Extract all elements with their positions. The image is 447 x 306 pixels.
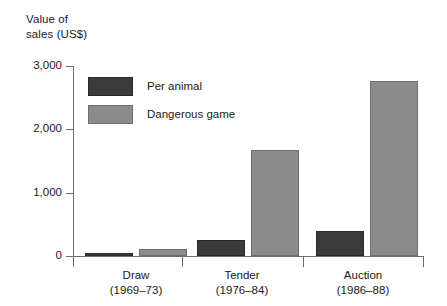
bar-draw-per-animal [85,253,133,256]
bar-auction-dangerous-game [370,81,418,256]
legend-swatch-icon [88,77,133,96]
x-label-tender: Tender (1976–84) [199,268,285,297]
legend-item-per-animal: Per animal [88,76,235,96]
x-label-draw: Draw (1969–73) [93,268,179,297]
bar-chart: Value of sales (US$) 3,000 2,000 1,000 0… [0,0,447,306]
y-tick-1000: 1,000 [0,193,74,194]
x-label-name: Auction [318,268,408,283]
y-tick-label: 0 [18,250,62,262]
x-separator-start [73,256,74,267]
y-axis-line [73,66,74,257]
x-label-years: (1986–88) [318,283,408,298]
y-tick-mark [66,193,74,194]
y-tick-0: 0 [0,256,74,257]
x-label-name: Draw [93,268,179,283]
legend-label: Per animal [147,80,202,92]
y-tick-label: 1,000 [18,187,62,199]
bar-auction-per-animal [316,231,364,256]
chart-legend: Per animal Dangerous game [88,76,235,132]
y-tick-mark [66,129,74,130]
y-tick-label: 3,000 [18,60,62,72]
bar-tender-per-animal [197,240,245,256]
y-tick-3000: 3,000 [0,66,74,67]
x-axis-line [73,256,424,257]
legend-label: Dangerous game [147,108,235,120]
bar-tender-dangerous-game [251,150,299,256]
x-separator-1 [182,256,183,267]
bar-draw-dangerous-game [139,249,187,256]
legend-swatch-icon [88,105,133,124]
x-label-years: (1969–73) [93,283,179,298]
x-separator-end [423,256,424,267]
y-tick-label: 2,000 [18,123,62,135]
x-label-years: (1976–84) [199,283,285,298]
x-separator-2 [303,256,304,267]
x-label-name: Tender [199,268,285,283]
x-label-auction: Auction (1986–88) [318,268,408,297]
y-tick-mark [66,66,74,67]
y-axis-title: Value of sales (US$) [26,12,87,42]
legend-item-dangerous-game: Dangerous game [88,104,235,124]
y-tick-2000: 2,000 [0,129,74,130]
